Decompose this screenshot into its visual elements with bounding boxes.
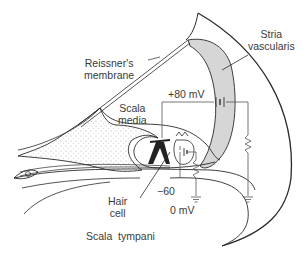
label-scala-tympani: Scala tympani	[86, 230, 155, 242]
top-cusp	[186, 13, 198, 40]
battery-icon-cell	[184, 148, 187, 156]
resistor-icon-cell	[193, 160, 199, 178]
label-reissners-membrane: Reissner's membrane	[84, 57, 134, 81]
label-hair-cell: Hair cell	[108, 195, 127, 219]
label-voltage-ground: 0 mV	[170, 204, 195, 216]
ground-icon-center	[191, 197, 201, 202]
circuit-wire-top	[162, 102, 214, 138]
resistor-icon	[245, 135, 251, 153]
label-stria-vascularis: Stria vascularis	[248, 28, 295, 52]
label-scala-media: Scala media	[118, 102, 147, 126]
pillar-cells	[148, 142, 170, 164]
cochlea-diagram: Reissner's membrane Stria vascularis Sca…	[0, 0, 308, 254]
label-voltage-top: +80 mV	[168, 88, 204, 100]
label-voltage-cell: −60	[157, 185, 175, 197]
stria-vascularis	[188, 39, 235, 168]
basilar-membrane	[14, 169, 255, 190]
